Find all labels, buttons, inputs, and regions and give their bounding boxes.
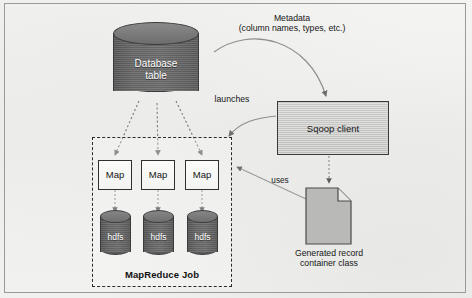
cylinder-top-ellipse xyxy=(100,210,131,223)
hdfs-label: hdfs xyxy=(143,232,174,242)
generated-record-document-label: Generated record container class xyxy=(281,249,377,268)
hdfs-store-cylinder[interactable]: hdfs xyxy=(187,210,218,258)
arrow-launches-sqoop-to-mapreduce xyxy=(229,116,276,136)
generated-record-document-icon[interactable] xyxy=(305,187,352,245)
sqoop-client-label: Sqoop client xyxy=(278,123,388,134)
map-task-box[interactable]: Map xyxy=(185,160,219,190)
database-table-cylinder[interactable]: Database table xyxy=(113,22,199,102)
connector-arrows-layer xyxy=(0,0,472,298)
mapreduce-job-label: MapReduce Job xyxy=(92,270,232,281)
sqoop-client-box[interactable]: Sqoop client xyxy=(277,101,389,155)
database-table-label: Database table xyxy=(113,58,199,81)
cylinder-top-ellipse xyxy=(113,22,199,45)
map-task-label: Map xyxy=(142,169,174,180)
map-task-box[interactable]: Map xyxy=(141,160,175,190)
metadata-edge-label: Metadata (column names, types, etc.) xyxy=(226,14,358,33)
map-task-label: Map xyxy=(186,169,218,180)
diagram-page: Database table MapReduce Job Map Map Map… xyxy=(0,0,472,298)
map-task-box[interactable]: Map xyxy=(98,160,132,190)
arrow-metadata-db-to-sqoop xyxy=(214,39,326,96)
cylinder-top-ellipse xyxy=(143,210,174,223)
map-task-label: Map xyxy=(99,169,131,180)
hdfs-store-cylinder[interactable]: hdfs xyxy=(143,210,174,258)
cylinder-top-ellipse xyxy=(187,210,218,223)
launches-edge-label: launches xyxy=(206,95,258,105)
uses-edge-label: uses xyxy=(263,176,297,185)
hdfs-store-cylinder[interactable]: hdfs xyxy=(100,210,131,258)
hdfs-label: hdfs xyxy=(187,232,218,242)
hdfs-label: hdfs xyxy=(100,232,131,242)
